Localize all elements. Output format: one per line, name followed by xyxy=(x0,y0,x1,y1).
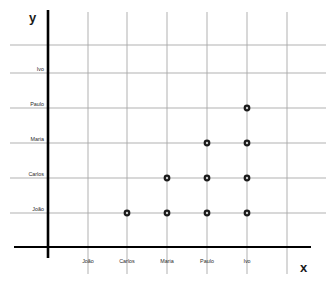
data-point[interactable] xyxy=(244,175,251,182)
data-point[interactable] xyxy=(204,175,211,182)
scatter-plot: y x Ivo Paulo Maria Carlos João João Car… xyxy=(0,0,332,286)
x-tick-label-maria: Maria xyxy=(160,259,173,264)
data-point[interactable] xyxy=(244,210,251,217)
data-point[interactable] xyxy=(204,140,211,147)
x-tick-label-joao: João xyxy=(82,259,94,264)
y-tick-label-joao: João xyxy=(32,207,44,212)
data-point[interactable] xyxy=(204,210,211,217)
horizontal-gridlines xyxy=(10,45,326,213)
x-tick-label-paulo: Paulo xyxy=(200,259,214,264)
x-tick-label-carlos: Carlos xyxy=(119,259,135,264)
x-tick-label-ivo: Ivo xyxy=(243,259,250,264)
data-point[interactable] xyxy=(164,175,171,182)
data-point[interactable] xyxy=(244,105,251,112)
y-tick-label-ivo: Ivo xyxy=(37,67,44,72)
y-tick-label-paulo: Paulo xyxy=(30,102,44,107)
plot-canvas xyxy=(0,0,332,286)
data-point[interactable] xyxy=(164,210,171,217)
y-axis-label: y xyxy=(29,11,36,24)
data-point[interactable] xyxy=(124,210,131,217)
y-tick-label-carlos: Carlos xyxy=(28,172,44,177)
x-axis-label: x xyxy=(300,261,307,274)
data-points xyxy=(124,105,251,217)
y-tick-label-maria: Maria xyxy=(31,137,44,142)
data-point[interactable] xyxy=(244,140,251,147)
